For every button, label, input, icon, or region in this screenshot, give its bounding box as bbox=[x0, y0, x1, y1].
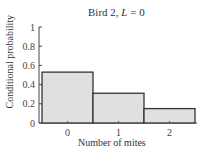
y-tick-label: 0.8 bbox=[23, 41, 36, 52]
x-tick-label: 2 bbox=[167, 127, 172, 138]
bar-chart: 00.20.40.60.81012 bbox=[0, 0, 202, 157]
x-tick-label: 1 bbox=[116, 127, 121, 138]
y-tick-label: 0.6 bbox=[23, 60, 36, 71]
y-tick-label: 0.4 bbox=[23, 79, 36, 90]
bar-0 bbox=[42, 72, 93, 123]
y-tick-label: 1 bbox=[30, 22, 35, 33]
bar-1 bbox=[93, 93, 144, 123]
y-tick-label: 0.2 bbox=[23, 98, 36, 109]
y-tick-label: 0 bbox=[30, 118, 35, 129]
bar-2 bbox=[144, 109, 195, 123]
x-tick-label: 0 bbox=[65, 127, 70, 138]
